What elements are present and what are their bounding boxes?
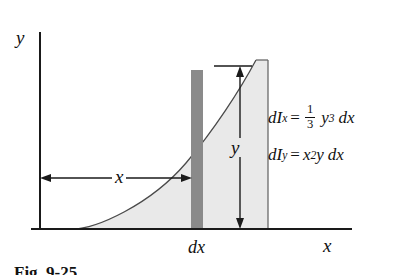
differential-strip <box>191 70 203 229</box>
dimension-label-y: y <box>229 138 241 157</box>
figure-caption: Fig. 9-25 <box>14 263 77 275</box>
formula-dIx: dIx=13y3dx <box>268 104 394 132</box>
formula-dIx-denominator: 3 <box>305 117 315 131</box>
formula-dIx-exponent: 3 <box>329 112 335 125</box>
x-axis-label: x <box>323 236 331 255</box>
formula-dIx-lhs: dI <box>268 108 282 128</box>
formula-dIx-numerator: 1 <box>305 103 315 116</box>
formula-dIx-equals: = <box>290 108 300 128</box>
formula-dIy-variable2: y <box>316 145 324 165</box>
formula-dIy-variable: x <box>303 145 311 165</box>
y-axis-label: y <box>16 28 24 47</box>
formula-dIx-differential: dx <box>339 108 355 128</box>
formula-dIy-equals: = <box>290 145 300 165</box>
formula-dIx-variable: y <box>321 108 329 128</box>
formula-dIy-differential: dx <box>328 145 344 165</box>
formula-dIx-subscript: x <box>282 112 287 125</box>
figure-container: y x x y dx dIx=13y3dx dIy=x2ydx Fig. 9-2… <box>0 0 394 275</box>
formula-dIy-subscript: y <box>282 149 287 162</box>
dimension-label-x: x <box>112 167 126 186</box>
strip-width-label: dx <box>188 238 205 256</box>
formula-block: dIx=13y3dx dIy=x2ydx <box>268 104 394 169</box>
formula-dIy: dIy=x2ydx <box>268 141 394 169</box>
formula-dIy-lhs: dI <box>268 145 282 165</box>
formula-dIx-fraction: 13 <box>305 103 315 130</box>
